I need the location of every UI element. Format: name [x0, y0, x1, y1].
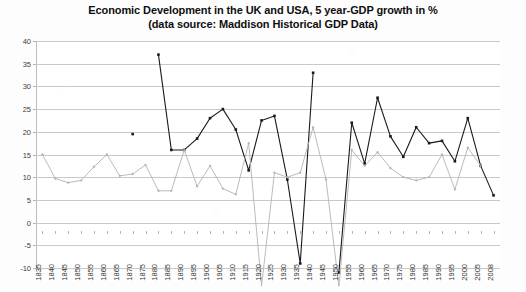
- x-tick-mark: [107, 231, 108, 234]
- x-tick-mark: [416, 231, 417, 234]
- data-point-marker: [209, 117, 212, 120]
- y-tick-label: 0: [27, 218, 31, 227]
- x-tick-mark: [339, 231, 340, 234]
- x-tick-label: 1865: [111, 264, 120, 281]
- data-point-marker: [350, 121, 353, 124]
- x-tick-label: 1975: [395, 264, 404, 281]
- data-point-marker: [428, 142, 431, 145]
- x-tick-label: 1985: [421, 264, 430, 281]
- data-point-marker: [67, 181, 70, 184]
- data-point-marker: [312, 71, 315, 74]
- data-point-marker: [466, 117, 469, 120]
- x-tick-mark: [171, 231, 172, 234]
- x-tick-mark: [365, 231, 366, 234]
- x-tick-label: 1920: [253, 264, 262, 281]
- x-tick-mark: [442, 231, 443, 234]
- x-tick-label: 1880: [150, 264, 159, 281]
- data-point-marker: [325, 178, 328, 181]
- x-tick-mark: [133, 231, 134, 234]
- y-tick-label: 20: [23, 127, 31, 136]
- x-tick-label: 1940: [305, 264, 314, 281]
- data-point-marker: [454, 160, 457, 163]
- chart-subtitle: (data source: Maddison Historical GDP Da…: [0, 17, 526, 31]
- x-tick-label: 1900: [202, 264, 211, 281]
- data-point-marker: [273, 171, 276, 174]
- data-point-marker: [415, 126, 418, 129]
- x-tick-label: 1990: [434, 264, 443, 281]
- x-tick-label: 1955: [343, 264, 352, 281]
- x-tick-mark: [390, 231, 391, 234]
- x-tick-mark: [81, 231, 82, 234]
- y-tick-label: 10: [23, 173, 31, 182]
- x-tick-mark: [455, 231, 456, 234]
- x-tick-mark: [262, 231, 263, 234]
- data-point-marker: [441, 140, 444, 143]
- chart-title-block: Economic Development in the UK and USA, …: [0, 3, 526, 31]
- x-tick-label: 1980: [408, 264, 417, 281]
- y-tick-label: 35: [23, 59, 31, 68]
- x-tick-mark: [274, 231, 275, 234]
- x-tick-label: 2005: [472, 264, 481, 281]
- data-point-marker: [415, 179, 418, 182]
- chart-title: Economic Development in the UK and USA, …: [0, 3, 526, 17]
- x-tick-mark: [184, 231, 185, 234]
- x-tick-label: 1915: [240, 264, 249, 281]
- x-tick-mark: [468, 231, 469, 234]
- x-tick-label: 1925: [266, 264, 275, 281]
- x-tick-label: 1995: [446, 264, 455, 281]
- x-tick-label: 1930: [279, 264, 288, 281]
- x-tick-mark: [68, 231, 69, 234]
- x-tick-mark: [300, 231, 301, 234]
- x-tick-label: 1960: [356, 264, 365, 281]
- x-tick-mark: [197, 231, 198, 234]
- x-tick-mark: [55, 231, 56, 234]
- x-tick-label: 2008: [485, 264, 494, 281]
- chart-root: Economic Development in the UK and USA, …: [0, 0, 526, 292]
- data-point-marker: [157, 53, 160, 56]
- y-axis-labels: 4035302520151050-5-10: [0, 41, 36, 268]
- x-tick-mark: [146, 231, 147, 234]
- data-point-marker: [402, 155, 405, 158]
- data-point-marker: [376, 96, 379, 99]
- x-tick-mark: [287, 231, 288, 234]
- x-tick-mark: [223, 231, 224, 234]
- x-tick-mark: [429, 231, 430, 234]
- x-tick-mark: [236, 231, 237, 234]
- x-tick-mark: [481, 231, 482, 234]
- data-point-marker: [492, 194, 495, 197]
- x-tick-mark: [378, 231, 379, 234]
- data-point-marker: [312, 126, 315, 129]
- y-tick-label: 30: [23, 82, 31, 91]
- x-tick-label: 1910: [227, 264, 236, 281]
- data-point-marker: [170, 189, 173, 192]
- data-point-marker: [222, 108, 225, 111]
- x-tick-mark: [42, 231, 43, 234]
- x-tick-label: 1950: [330, 264, 339, 281]
- x-tick-mark: [94, 231, 95, 234]
- x-tick-label: 1855: [86, 264, 95, 281]
- y-tick-label: 5: [27, 195, 31, 204]
- data-point-marker: [453, 188, 456, 191]
- data-point-marker: [196, 137, 199, 140]
- x-tick-label: 1840: [47, 264, 56, 281]
- x-tick-mark: [210, 231, 211, 234]
- x-tick-label: 1890: [176, 264, 185, 281]
- data-point-marker: [234, 128, 237, 131]
- x-tick-mark: [403, 231, 404, 234]
- x-tick-mark: [494, 231, 495, 234]
- x-tick-mark: [313, 231, 314, 234]
- x-tick-label: 1895: [189, 264, 198, 281]
- x-axis-labels: 1835184018451850185518601865187018751880…: [36, 231, 500, 281]
- x-tick-label: 1905: [214, 264, 223, 281]
- x-tick-label: 1845: [60, 264, 69, 281]
- data-point-marker: [234, 193, 237, 196]
- data-point-marker: [131, 133, 134, 136]
- x-tick-mark: [158, 231, 159, 234]
- y-tick-label: 25: [23, 105, 31, 114]
- y-tick-label: 15: [23, 150, 31, 159]
- y-tick-label: 40: [23, 37, 31, 46]
- y-tick-label: -10: [20, 264, 31, 273]
- y-tick-label: -5: [24, 241, 31, 250]
- x-tick-label: 1850: [73, 264, 82, 281]
- data-point-marker: [170, 149, 173, 152]
